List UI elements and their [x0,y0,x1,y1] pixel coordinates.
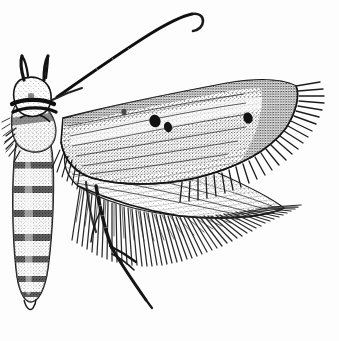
moth-drawing [0,0,339,341]
moth-illustration-figure: Black and white engraved illustration of… [0,0,339,341]
